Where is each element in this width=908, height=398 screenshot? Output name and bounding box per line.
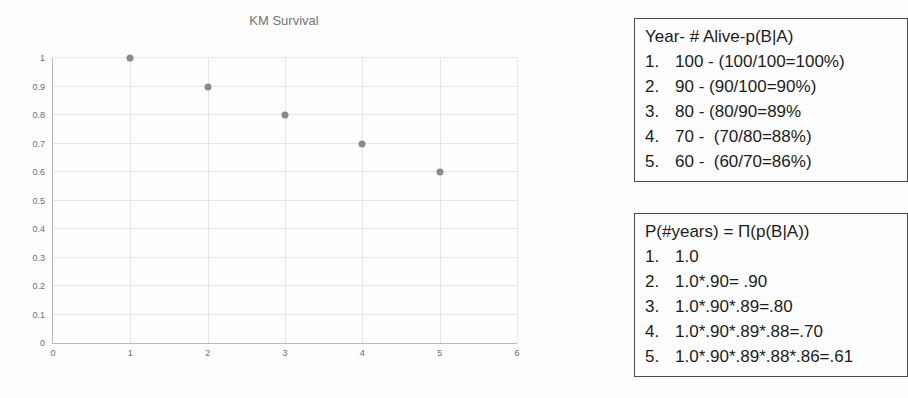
y-axis-tick-label: 0.3 xyxy=(32,253,45,262)
y-axis-tick-label: 0.5 xyxy=(32,196,45,205)
list-item: 1. 100 - (100/100=100%) xyxy=(645,49,899,74)
list-item: 4. 1.0*.90*.89*.88=.70 xyxy=(645,319,899,344)
item-number: 5. xyxy=(645,149,675,174)
data-point xyxy=(359,140,366,147)
y-axis-tick-label: 0.7 xyxy=(32,139,45,148)
item-number: 4. xyxy=(645,319,675,344)
item-text: 1.0*.90= .90 xyxy=(675,269,767,294)
item-number: 2. xyxy=(645,269,675,294)
item-text: 100 - (100/100=100%) xyxy=(675,49,845,74)
list-item: 1. 1.0 xyxy=(645,244,899,269)
y-axis-tick-label: 0 xyxy=(40,339,45,348)
year-alive-panel-title: Year- # Alive-p(B|A) xyxy=(645,24,899,49)
x-axis-tick-label: 4 xyxy=(360,349,365,358)
gridline-vertical xyxy=(208,58,209,343)
probability-panel: P(#years) = Π(p(B|A)) 1. 1.0 2. 1.0*.90=… xyxy=(634,213,908,377)
gridline-vertical xyxy=(362,58,363,343)
data-point xyxy=(127,55,134,62)
gridline-vertical xyxy=(440,58,441,343)
y-axis-tick-label: 0.4 xyxy=(32,225,45,234)
x-axis-tick-label: 5 xyxy=(437,349,442,358)
item-number: 5. xyxy=(645,344,675,369)
list-item: 4. 70 - (70/80=88%) xyxy=(645,124,899,149)
y-axis-tick-label: 0.6 xyxy=(32,168,45,177)
plot-area: 00.10.20.30.40.50.60.70.80.910123456 xyxy=(52,58,517,344)
y-axis-tick-label: 0.1 xyxy=(32,310,45,319)
probability-panel-title: P(#years) = Π(p(B|A)) xyxy=(645,219,899,244)
item-number: 4. xyxy=(645,124,675,149)
item-text: 1.0*.90*.89*.88=.70 xyxy=(675,319,823,344)
x-axis-tick-label: 0 xyxy=(50,349,55,358)
year-alive-panel: Year- # Alive-p(B|A) 1. 100 - (100/100=1… xyxy=(634,18,908,182)
list-item: 2. 90 - (90/100=90%) xyxy=(645,74,899,99)
item-text: 90 - (90/100=90%) xyxy=(675,74,816,99)
y-axis-tick-label: 1 xyxy=(40,54,45,63)
y-axis-tick-label: 0.2 xyxy=(32,282,45,291)
data-point xyxy=(436,169,443,176)
item-text: 70 - (70/80=88%) xyxy=(675,124,812,149)
gridline-vertical xyxy=(130,58,131,343)
data-point xyxy=(204,83,211,90)
y-axis-tick-label: 0.9 xyxy=(32,82,45,91)
data-point xyxy=(282,112,289,119)
item-number: 1. xyxy=(645,244,675,269)
item-number: 3. xyxy=(645,294,675,319)
x-axis-tick-label: 1 xyxy=(128,349,133,358)
list-item: 5. 60 - (60/70=86%) xyxy=(645,149,899,174)
x-axis-tick-label: 2 xyxy=(205,349,210,358)
list-item: 3. 1.0*.90*.89=.80 xyxy=(645,294,899,319)
item-text: 1.0*.90*.89*.88*.86=.61 xyxy=(675,344,853,369)
list-item: 3. 80 - (80/90=89% xyxy=(645,99,899,124)
item-text: 80 - (80/90=89% xyxy=(675,99,801,124)
list-item: 2. 1.0*.90= .90 xyxy=(645,269,899,294)
item-text: 1.0*.90*.89=.80 xyxy=(675,294,793,319)
y-axis-tick-label: 0.8 xyxy=(32,111,45,120)
item-text: 1.0 xyxy=(675,244,699,269)
list-item: 5. 1.0*.90*.89*.88*.86=.61 xyxy=(645,344,899,369)
chart-title: KM Survival xyxy=(52,13,516,28)
item-number: 1. xyxy=(645,49,675,74)
gridline-vertical xyxy=(517,58,518,343)
x-axis-tick-label: 3 xyxy=(282,349,287,358)
km-survival-chart: KM Survival 00.10.20.30.40.50.60.70.80.9… xyxy=(0,0,560,398)
item-number: 3. xyxy=(645,99,675,124)
item-number: 2. xyxy=(645,74,675,99)
gridline-vertical xyxy=(285,58,286,343)
x-axis-tick-label: 6 xyxy=(514,349,519,358)
item-text: 60 - (60/70=86%) xyxy=(675,149,812,174)
